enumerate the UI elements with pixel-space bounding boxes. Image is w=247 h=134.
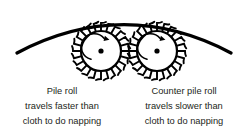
right-caption-line-1: Counter pile roll xyxy=(151,86,216,96)
counter-pile-roll-hub xyxy=(154,48,159,53)
left-caption-line-2: travels faster than xyxy=(25,101,99,111)
right-caption: Counter pile roll travels slower than cl… xyxy=(145,86,224,126)
right-caption-line-3: cloth to do napping xyxy=(145,116,224,126)
pile-roll-hub xyxy=(98,48,103,53)
right-caption-line-2: travels slower than xyxy=(145,101,223,111)
left-caption-line-1: Pile roll xyxy=(47,86,77,96)
napping-roller-diagram: Pile roll travels faster than cloth to d… xyxy=(0,0,247,134)
left-caption-line-3: cloth to do napping xyxy=(23,116,102,126)
diagram-canvas: Pile roll travels faster than cloth to d… xyxy=(0,0,247,134)
